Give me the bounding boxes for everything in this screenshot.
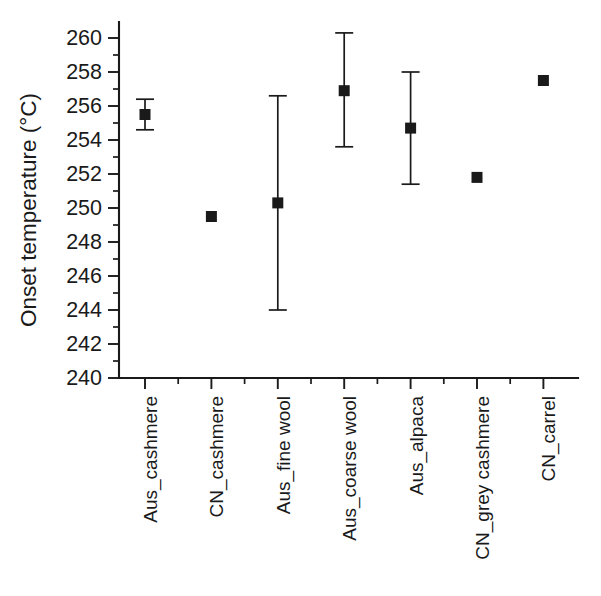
x-axis-tick-label: CN_cashmere: [206, 396, 228, 517]
y-axis-ticks: [108, 38, 119, 378]
y-axis-tick-label: 248: [66, 230, 102, 254]
x-axis-tick-label: CN_grey cashmere: [472, 396, 494, 560]
y-axis-tick-label: 252: [66, 162, 102, 186]
data-point-marker: [538, 75, 549, 86]
onset-temperature-scatter-chart: Onset temperature (°C) 24024224424624825…: [0, 0, 601, 596]
y-axis-label: Onset temperature (°C): [16, 93, 41, 327]
y-axis-tick-label: 246: [66, 264, 102, 288]
data-point-marker: [206, 211, 217, 222]
data-point-marker: [272, 197, 283, 208]
y-axis-tick-label: 258: [66, 60, 102, 84]
chart-figure: Onset temperature (°C) 24024224424624825…: [0, 0, 601, 596]
x-axis-tick-label: Aus_coarse wool: [339, 396, 361, 541]
y-axis-tick-label: 250: [66, 196, 102, 220]
y-axis-tick-label: 254: [66, 128, 102, 152]
x-axis-tick-label: Aus_alpaca: [406, 396, 428, 496]
x-axis: Aus_cashmereCN_cashmereAus_fine woolAus_…: [119, 378, 578, 560]
y-axis-label-text: Onset temperature (°C): [16, 93, 41, 327]
y-axis-tick-label: 244: [66, 298, 102, 322]
data-point-marker: [405, 123, 416, 134]
data-point: [335, 33, 353, 147]
data-point: [402, 72, 420, 184]
x-axis-tick-labels: Aus_cashmereCN_cashmereAus_fine woolAus_…: [140, 396, 560, 560]
y-axis-tick-label: 242: [66, 332, 102, 356]
data-point-marker: [472, 172, 483, 183]
data-point: [472, 172, 483, 183]
data-point: [538, 75, 549, 86]
y-axis: 240242244246248250252254256258260: [66, 22, 119, 390]
x-axis-tick-label: Aus_fine wool: [273, 396, 295, 514]
y-axis-tick-labels: 240242244246248250252254256258260: [66, 26, 102, 390]
x-axis-ticks: [145, 378, 543, 389]
data-point: [206, 211, 217, 222]
x-axis-tick-label: Aus_cashmere: [140, 396, 162, 523]
y-axis-tick-label: 256: [66, 94, 102, 118]
data-point: [269, 96, 287, 310]
y-axis-tick-label: 240: [66, 366, 102, 390]
data-point-marker: [339, 85, 350, 96]
y-axis-tick-label: 260: [66, 26, 102, 50]
x-axis-tick-label: CN_carrel: [538, 396, 560, 482]
data-series-onset-temperature: [136, 33, 549, 310]
data-point: [136, 99, 154, 130]
data-point-marker: [140, 109, 151, 120]
